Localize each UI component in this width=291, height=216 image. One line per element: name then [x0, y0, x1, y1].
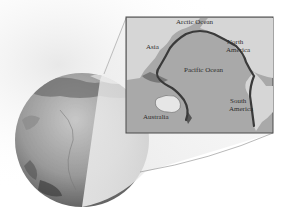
label-asia: Asia	[146, 44, 159, 52]
label-arctic-ocean: Arctic Ocean	[176, 19, 213, 27]
label-pacific-ocean: Pacific Ocean	[184, 67, 223, 75]
label-north-america-line2: America	[226, 47, 250, 55]
figure: Arctic Ocean Asia North America Pacific …	[0, 0, 291, 216]
label-south-america-line2: America	[229, 106, 253, 114]
label-australia: Australia	[143, 114, 169, 122]
